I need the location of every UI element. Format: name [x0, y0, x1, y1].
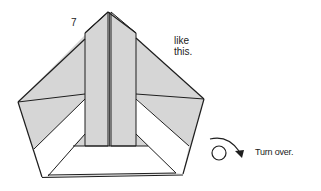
center-right-strip [111, 12, 136, 146]
turn-over-label: Turn over. [255, 147, 293, 158]
center-left-strip [85, 12, 108, 146]
origami-step-diagram [0, 0, 321, 191]
turn-over-icon [210, 138, 244, 160]
instruction-note: like this. [174, 35, 192, 57]
note-line-2: this. [174, 46, 192, 57]
step-number: 7 [71, 17, 77, 28]
note-line-1: like [174, 35, 192, 46]
